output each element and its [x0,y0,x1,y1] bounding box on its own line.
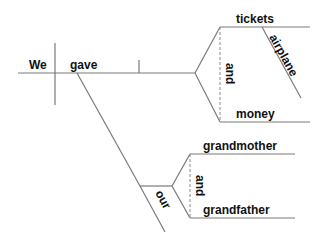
sentence-diagram: We gave tickets money airplane and our g… [0,0,323,249]
money-word: money [236,107,275,121]
grandmother-word: grandmother [203,139,277,153]
fork-lower [195,73,220,122]
grandfather-word: grandfather [203,203,270,217]
fork2-lower [172,186,190,218]
and-word: and [223,63,237,84]
subject-word: We [29,58,47,72]
airplane-word: airplane [266,32,301,79]
indirect-slant [77,73,140,186]
verb-word: gave [70,58,98,72]
fork2-upper [172,154,190,186]
our-word: our [152,188,174,212]
tickets-word: tickets [236,12,274,26]
and2-word: and [193,175,207,196]
fork-upper [195,27,220,73]
